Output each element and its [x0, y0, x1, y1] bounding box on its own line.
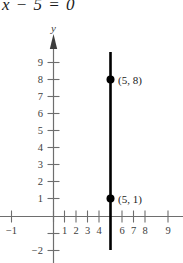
x-label-9: 9: [165, 225, 170, 236]
y-label-1: 1: [38, 193, 43, 204]
graph-figure: x − 5 = 0 y 9 8 7 6 5: [0, 0, 183, 263]
data-point-5-8: [107, 76, 115, 84]
x-label-3: 3: [85, 225, 90, 236]
data-point-label-5-8: (5, 8): [118, 74, 142, 87]
y-label-8: 8: [38, 74, 43, 85]
x-label-6: 6: [119, 225, 124, 236]
data-point-label-5-1: (5, 1): [118, 193, 142, 206]
y-label-2: 2: [38, 176, 43, 187]
y-label-4: 4: [38, 142, 44, 153]
x-label-7: 7: [131, 225, 136, 236]
y-axis-arrow-icon: [50, 34, 57, 49]
coordinate-plane: y 9 8 7 6 5 4 3 2 1 −2: [0, 0, 183, 263]
y-label-7: 7: [38, 91, 43, 102]
y-label-5: 5: [38, 125, 43, 136]
x-tick-labels: −1 1 2 3 4 6 7 8 9: [6, 225, 171, 236]
y-label-3: 3: [38, 159, 43, 170]
y-axis-label: y: [50, 22, 56, 34]
x-label-1: 1: [62, 225, 67, 236]
x-label-4: 4: [96, 225, 102, 236]
y-label-9: 9: [38, 57, 43, 68]
x-label-2: 2: [73, 225, 78, 236]
y-tick-labels: 9 8 7 6 5 4 3 2 1 −2: [32, 57, 44, 256]
data-point-5-1: [107, 195, 115, 203]
y-label-neg2: −2: [32, 245, 43, 256]
x-label-neg1: −1: [6, 225, 17, 236]
y-label-6: 6: [38, 108, 43, 119]
x-label-8: 8: [142, 225, 147, 236]
